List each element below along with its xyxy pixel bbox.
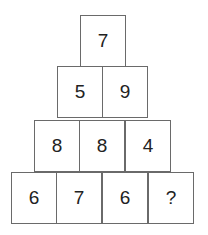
pyramid-cell-r4c1: 6 <box>11 172 57 224</box>
pyramid-cell-r4c2: 7 <box>56 172 102 224</box>
pyramid-cell-r4c3: 6 <box>102 172 148 224</box>
pyramid-cell-r2c1: 5 <box>57 66 103 118</box>
pyramid-cell-r2c2: 9 <box>102 66 148 118</box>
pyramid-cell-r1c1: 7 <box>80 15 126 67</box>
pyramid-cell-r4c4-unknown: ? <box>148 172 194 224</box>
pyramid-cell-r3c1: 8 <box>34 120 80 172</box>
pyramid-cell-r3c3: 4 <box>125 120 171 172</box>
pyramid-cell-r3c2: 8 <box>79 120 125 172</box>
